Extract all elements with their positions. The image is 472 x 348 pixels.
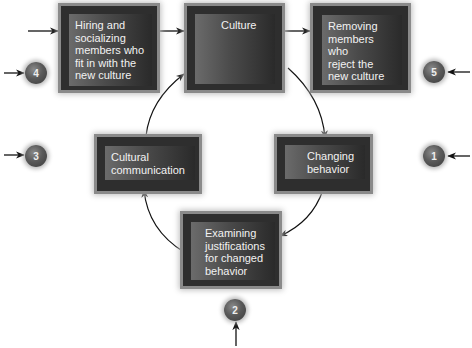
step-badge-1: 1 [423, 145, 445, 167]
step-badge-4: 4 [25, 62, 47, 84]
box-examining: Examining justifications for changed beh… [183, 214, 279, 286]
box-communication: Cultural communication [97, 137, 199, 191]
box-examining-label: Examining justifications for changed beh… [191, 222, 275, 280]
step-badge-3: 3 [25, 145, 47, 167]
box-changing-label: Changing behavior [285, 145, 365, 179]
box-hiring: Hiring and socializing members who fit i… [61, 6, 157, 90]
box-culture-label: Culture [195, 14, 275, 84]
step-badge-2: 2 [224, 299, 246, 321]
box-removing: Removing members who reject the new cult… [313, 6, 408, 90]
box-hiring-label: Hiring and socializing members who fit i… [69, 14, 152, 86]
box-removing-label: Removing members who reject the new cult… [322, 15, 402, 85]
box-culture: Culture [187, 6, 282, 90]
box-changing: Changing behavior [277, 137, 370, 191]
box-communication-label: Cultural communication [105, 146, 195, 180]
step-badge-5: 5 [423, 61, 445, 83]
